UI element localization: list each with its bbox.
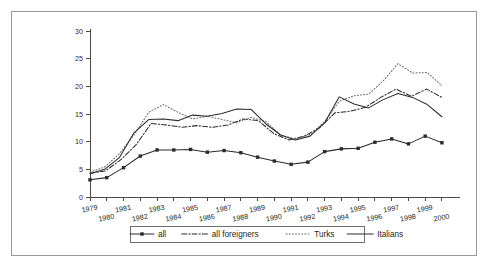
data-point-marker: [390, 137, 393, 140]
data-point-marker: [373, 141, 376, 144]
x-tick-label: 1986: [198, 212, 215, 224]
x-tick-label: 1981: [114, 203, 131, 215]
y-tick-label: 20: [75, 82, 83, 91]
y-axis: 051015202530: [75, 27, 90, 202]
x-tick-label: 1995: [349, 203, 366, 215]
x-tick-label: 1989: [248, 203, 265, 215]
y-tick-label: 10: [75, 137, 83, 146]
data-point-marker: [423, 134, 426, 137]
x-tick-label: 1992: [299, 212, 316, 224]
y-tick-label: 25: [75, 54, 83, 63]
data-point-marker: [306, 160, 309, 163]
series-line-all: [90, 136, 442, 180]
line-chart: 051015202530 197919801981198219831984198…: [12, 12, 478, 257]
data-point-marker: [407, 142, 410, 145]
legend-marker: [140, 232, 143, 235]
x-tick-label: 1991: [282, 203, 299, 215]
legend-label-italians: Italians: [377, 230, 403, 239]
x-tick-label: 1984: [165, 212, 182, 224]
data-point-marker: [139, 154, 142, 157]
data-point-marker: [155, 148, 158, 151]
data-point-marker: [340, 147, 343, 150]
data-point-marker: [189, 148, 192, 151]
x-tick-label: 1990: [265, 212, 282, 224]
data-point-marker: [105, 176, 108, 179]
data-point-marker: [222, 149, 225, 152]
chart-plot-container: 051015202530 197919801981198219831984198…: [12, 12, 478, 257]
data-point-marker: [273, 159, 276, 162]
x-tick-label: 2000: [433, 212, 450, 224]
y-tick-label: 30: [75, 27, 83, 36]
data-point-marker: [289, 163, 292, 166]
data-point-marker: [88, 178, 91, 181]
x-tick-label: 1979: [81, 203, 98, 215]
x-tick-label: 1996: [366, 212, 383, 224]
x-tick-label: 1985: [181, 203, 198, 215]
x-tick-label: 1993: [315, 203, 332, 215]
data-point-marker: [206, 150, 209, 153]
x-axis: 1979198019811982198319841985198619871988…: [81, 197, 460, 223]
legend-label-all-foreigners: all foreigners: [212, 230, 259, 239]
y-tick-label: 0: [79, 193, 83, 202]
legend-label-turks: Turks: [314, 230, 334, 239]
series-line-turks: [90, 64, 442, 172]
x-tick-label: 1987: [215, 203, 232, 215]
x-tick-label: 1997: [382, 203, 399, 215]
chart-figure-frame: 051015202530 197919801981198219831984198…: [11, 11, 477, 256]
legend-label-all: all: [158, 230, 166, 239]
x-tick-label: 1988: [232, 212, 249, 224]
series-line-italians: [90, 94, 442, 174]
data-point-marker: [172, 148, 175, 151]
data-point-marker: [122, 166, 125, 169]
x-tick-label: 1994: [332, 212, 349, 224]
y-tick-label: 15: [75, 110, 83, 119]
series-line-all-foreigners: [90, 89, 442, 173]
y-tick-label: 5: [79, 165, 83, 174]
x-tick-label: 1982: [131, 212, 148, 224]
data-point-marker: [356, 147, 359, 150]
x-tick-label: 1999: [416, 203, 433, 215]
data-series-group: [88, 64, 443, 182]
data-point-marker: [239, 151, 242, 154]
chart-legend: allall foreignersTurksItalians: [130, 226, 403, 242]
data-point-marker: [440, 141, 443, 144]
data-point-marker: [323, 150, 326, 153]
x-tick-label: 1980: [98, 212, 115, 224]
x-tick-label: 1998: [399, 212, 416, 224]
x-tick-label: 1983: [148, 203, 165, 215]
data-point-marker: [256, 155, 259, 158]
